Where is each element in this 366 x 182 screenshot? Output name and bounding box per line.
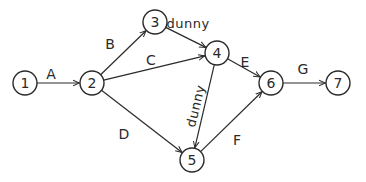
- node-number: 3: [151, 14, 160, 30]
- activity-label-B: B: [105, 36, 115, 52]
- node-number: 6: [267, 75, 276, 91]
- activity-label-G: G: [298, 61, 309, 77]
- event-node-6: 6: [259, 71, 283, 95]
- event-node-3: 3: [143, 10, 167, 34]
- event-node-2: 2: [80, 71, 104, 95]
- dummy-activity-label: dunny: [166, 16, 209, 31]
- event-node-1: 1: [13, 71, 37, 95]
- edge-2-5-arrow: [102, 90, 183, 152]
- activity-label-F: F: [233, 132, 241, 148]
- activity-label-E: E: [241, 54, 250, 70]
- activity-label-D: D: [119, 126, 130, 142]
- nodes-layer: 1234567: [13, 10, 350, 172]
- node-number: 1: [21, 75, 30, 91]
- event-node-5: 5: [180, 148, 204, 172]
- node-number: 4: [213, 45, 222, 61]
- edges-layer: [37, 27, 326, 152]
- activity-label-A: A: [46, 66, 56, 82]
- node-number: 5: [188, 152, 197, 168]
- activity-label-C: C: [146, 52, 156, 68]
- node-number: 2: [88, 75, 97, 91]
- node-number: 7: [334, 75, 343, 91]
- event-node-7: 7: [326, 71, 350, 95]
- network-diagram: 1234567 ABCDdunnyEdunnyFG: [0, 0, 366, 182]
- edge-5-6-arrow: [201, 92, 262, 152]
- event-node-4: 4: [205, 41, 229, 65]
